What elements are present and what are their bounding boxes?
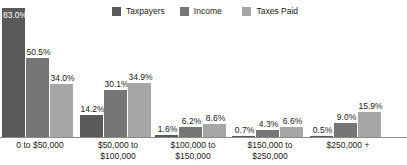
x-axis-label: $250,000 + xyxy=(296,140,400,151)
bar-value-label: 30.1% xyxy=(103,79,130,89)
bar-value-label: 6.2% xyxy=(178,116,205,126)
x-axis-line xyxy=(0,137,407,138)
bar-taxes-paid xyxy=(358,112,381,137)
bar-value-label: 1.6% xyxy=(154,124,181,134)
bar-taxes-paid xyxy=(50,84,73,137)
bar-income xyxy=(334,123,357,137)
bar-value-label: 0.5% xyxy=(309,125,336,135)
bar-chart: Taxpayers Income Taxes Paid 83.0%50.5%34… xyxy=(0,0,407,165)
bar-value-label: 6.6% xyxy=(279,116,306,126)
bar-value-label: 34.9% xyxy=(127,72,154,82)
bar-value-label: 34.0% xyxy=(49,73,76,83)
bar-income xyxy=(256,130,279,137)
bar-group: 0.5%9.0%15.9% xyxy=(310,0,386,137)
x-axis-labels: 0 to $50,000$50,000 to$100,000$100,000 t… xyxy=(0,140,407,165)
x-axis-label-line: $250,000 + xyxy=(296,140,400,151)
bar-group: 1.6%6.2%8.6% xyxy=(155,0,231,137)
bar-group: 0.7%4.3%6.6% xyxy=(232,0,308,137)
bar-value-label: 8.6% xyxy=(202,113,229,123)
bar-income xyxy=(104,90,127,137)
bar-income xyxy=(26,58,49,137)
x-axis-label-line: $250,000 xyxy=(218,151,322,162)
bar-taxpayers xyxy=(2,8,25,137)
bar-value-label: 0.7% xyxy=(231,125,258,135)
bar-value-label: 14.2% xyxy=(79,104,106,114)
bar-group: 83.0%50.5%34.0% xyxy=(2,0,78,137)
bar-taxpayers xyxy=(80,115,103,137)
bar-value-label: 15.9% xyxy=(357,101,384,111)
bar-value-label: 9.0% xyxy=(333,112,360,122)
bar-group: 14.2%30.1%34.9% xyxy=(80,0,156,137)
bar-income xyxy=(179,127,202,137)
bar-taxes-paid xyxy=(128,83,151,137)
plot-area: 83.0%50.5%34.0%14.2%30.1%34.9%1.6%6.2%8.… xyxy=(0,0,407,137)
bar-taxes-paid xyxy=(203,124,226,137)
bar-value-label: 83.0% xyxy=(1,10,28,20)
bar-taxes-paid xyxy=(280,127,303,137)
bar-value-label: 4.3% xyxy=(255,119,282,129)
bar-value-label: 50.5% xyxy=(25,47,52,57)
